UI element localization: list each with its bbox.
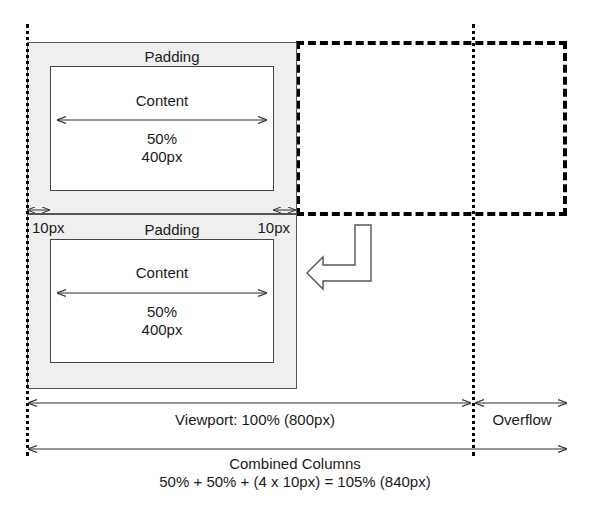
diagram-arrows bbox=[0, 0, 591, 509]
overflow-label: Overflow bbox=[478, 411, 566, 429]
combined-columns-title: Combined Columns bbox=[145, 455, 445, 473]
wrap-arrow-icon bbox=[307, 225, 371, 289]
combined-columns-formula: 50% + 50% + (4 x 10px) = 105% (840px) bbox=[95, 473, 495, 491]
viewport-label: Viewport: 100% (800px) bbox=[130, 411, 380, 429]
